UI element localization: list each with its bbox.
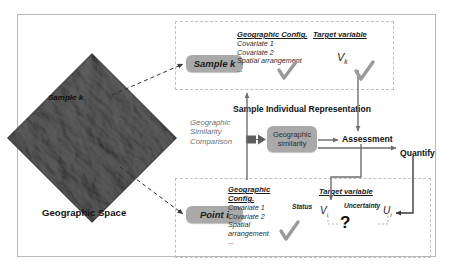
comparison-line2: Similarity [190, 127, 222, 136]
sample-target-symbol: Vk [337, 51, 348, 65]
geosim-line2: similarity [278, 139, 307, 148]
comparison-label: GeographicSimilarityComparison [190, 118, 232, 146]
sample-k-label: Sample k [194, 58, 236, 69]
point-uncertainty-symbol: Ui [383, 205, 392, 218]
vk-sub: k [344, 58, 347, 65]
sample-k-node[interactable]: Sample k [186, 55, 243, 72]
geosim-line1: Geographic [273, 130, 311, 139]
sample-config-item-2: Spatial arrangement [237, 56, 302, 65]
point-target-header: Target variable [319, 187, 373, 196]
uncertainty-label: Uncertainty [344, 202, 380, 209]
ui-sub: i [390, 212, 391, 218]
vi-base: V [320, 205, 327, 216]
status-label: Status [292, 203, 312, 210]
point-config-item-3: ... [228, 237, 234, 246]
point-config-list: Covariate 1Covariate 2Spatial arrangemen… [228, 204, 278, 247]
sample-config-list: Covariate 1Covariate 2Spatial arrangemen… [237, 40, 302, 74]
geographic-similarity-node[interactable]: Geographicsimilarity [267, 126, 317, 152]
assessment-node[interactable]: Assessment [342, 134, 393, 144]
terrain-dem-icon [7, 53, 177, 223]
geographic-space-label: Geographic Space [42, 207, 126, 218]
point-status-symbol: Vi [320, 205, 328, 218]
vi-sub: i [327, 212, 328, 218]
sample-config-header: Geographic Config. [237, 30, 307, 39]
sample-config-item-3: ... [237, 65, 243, 74]
unknown-marker: ? [340, 213, 350, 233]
comparison-line3: Comparison [190, 137, 232, 146]
sample-target-header: Target variable [313, 30, 367, 39]
comparison-line1: Geographic [190, 118, 230, 127]
diagram-canvas: Sample k Geographic Space Sample k Point… [0, 0, 453, 280]
representation-title: Sample Individual Representation [233, 104, 371, 114]
terrain-sample-label: Sample k [48, 93, 83, 102]
point-config-header: Geographic Config. [228, 185, 284, 203]
geographic-similarity-label: Geographicsimilarity [273, 130, 311, 148]
quantify-node[interactable]: Quantify [400, 148, 435, 158]
point-i-label: Point i [200, 209, 229, 220]
point-config-item-2: Spatial arrangement [228, 220, 269, 238]
